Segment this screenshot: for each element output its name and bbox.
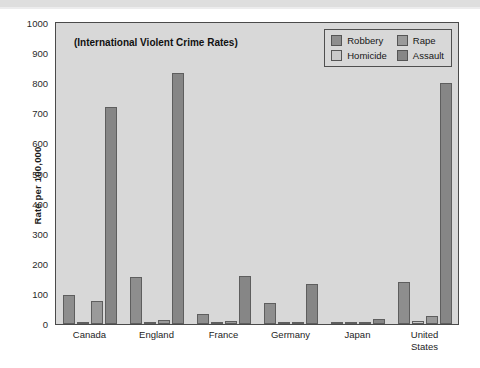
x-tick-label: Japan [345, 329, 371, 341]
plot-area: (International Violent Crime Rates) Robb… [55, 22, 459, 325]
x-tick-label: England [139, 329, 174, 341]
legend-label: Robbery [347, 35, 383, 46]
y-axis-tick-labels: 01002003004005006007008009001000 [14, 0, 48, 368]
bar-robbery-canada [63, 295, 75, 324]
bar-rape-united-states [426, 316, 438, 324]
bar-homicide-canada [77, 322, 89, 325]
x-tick-label: United States [411, 329, 438, 352]
legend-swatch-icon [331, 35, 342, 46]
y-tick-label: 500 [14, 168, 48, 179]
y-tick-label: 300 [14, 228, 48, 239]
bar-homicide-united-states [412, 321, 424, 324]
y-tick-label: 200 [14, 258, 48, 269]
top-strip [0, 0, 480, 7]
bar-rape-japan [359, 322, 371, 325]
bar-robbery-france [197, 314, 209, 324]
legend-item[interactable]: Homicide [331, 50, 387, 61]
chart-legend: RobberyRapeHomicideAssault [324, 29, 452, 67]
top-strip-secondary [0, 7, 480, 9]
legend-label: Assault [413, 50, 444, 61]
bar-rape-canada [91, 301, 103, 324]
bar-homicide-france [211, 322, 223, 325]
bar-robbery-germany [264, 303, 276, 324]
legend-label: Homicide [347, 50, 387, 61]
bar-rape-england [158, 320, 170, 324]
legend-swatch-icon [331, 50, 342, 61]
bar-robbery-united-states [398, 282, 410, 324]
bar-assault-united-states [440, 83, 452, 324]
bar-homicide-germany [278, 322, 290, 325]
chart-title: (International Violent Crime Rates) [74, 37, 238, 48]
bar-rape-france [225, 321, 237, 324]
legend-item[interactable]: Robbery [331, 35, 387, 46]
legend-item[interactable]: Rape [397, 35, 444, 46]
bar-assault-england [172, 73, 184, 324]
y-tick-label: 1000 [14, 18, 48, 29]
legend-item[interactable]: Assault [397, 50, 444, 61]
y-tick-label: 100 [14, 288, 48, 299]
bar-assault-canada [105, 107, 117, 324]
bar-robbery-japan [331, 322, 343, 325]
bar-homicide-japan [345, 322, 357, 325]
bar-robbery-england [130, 277, 142, 324]
y-tick-label: 0 [14, 319, 48, 330]
y-tick-label: 700 [14, 108, 48, 119]
y-tick-label: 600 [14, 138, 48, 149]
y-tick-label: 400 [14, 198, 48, 209]
y-tick-label: 900 [14, 48, 48, 59]
bar-rape-germany [292, 322, 304, 325]
legend-swatch-icon [397, 50, 408, 61]
legend-label: Rape [413, 35, 436, 46]
x-tick-label: Canada [73, 329, 106, 341]
legend-swatch-icon [397, 35, 408, 46]
bar-assault-germany [306, 284, 318, 324]
plot-inner: (International Violent Crime Rates) Robb… [56, 23, 458, 324]
x-tick-label: France [209, 329, 239, 341]
bar-assault-japan [373, 319, 385, 324]
y-tick-label: 800 [14, 78, 48, 89]
x-tick-label: Germany [271, 329, 310, 341]
bar-assault-france [239, 276, 251, 324]
chart-figure: Rate per 100,000 01002003004005006007008… [0, 0, 480, 368]
bar-homicide-england [144, 322, 156, 325]
